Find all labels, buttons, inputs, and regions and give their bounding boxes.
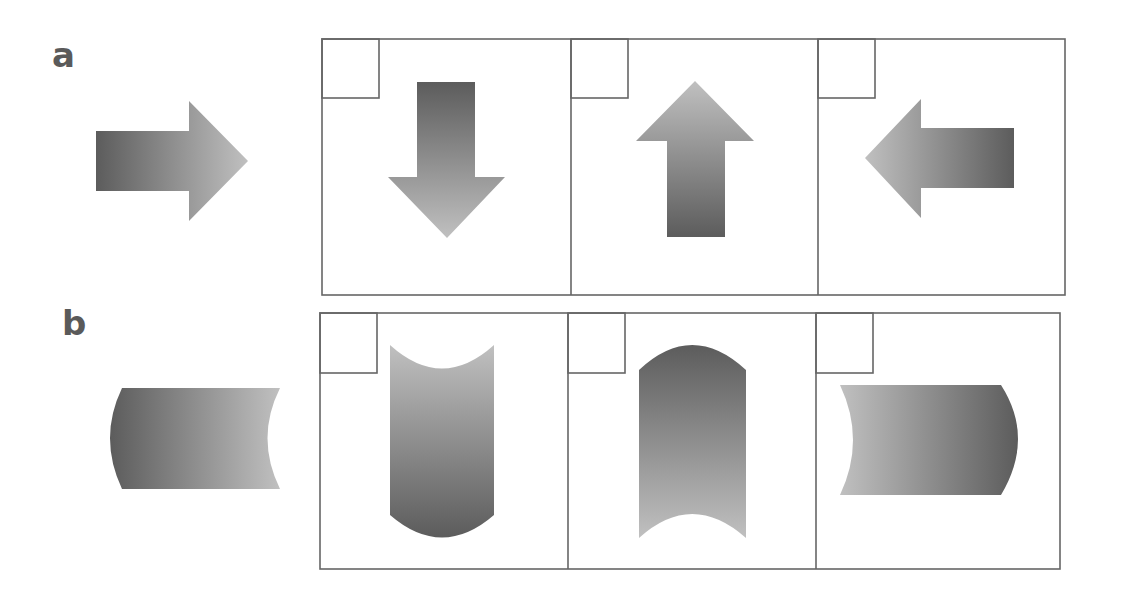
cylinder-vertical-concave-top-icon[interactable]: [390, 345, 494, 538]
answer-box-b2[interactable]: [568, 313, 625, 373]
answer-box-b1[interactable]: [320, 313, 377, 373]
arrow-left-icon[interactable]: [865, 99, 1014, 218]
answer-box-a1[interactable]: [322, 39, 379, 98]
cylinder-vertical-concave-bottom-icon[interactable]: [639, 345, 746, 538]
arrow-down-icon[interactable]: [388, 82, 505, 238]
answer-box-a3[interactable]: [818, 39, 875, 98]
diagram-canvas: [0, 0, 1122, 598]
cylinder-left-concave-icon[interactable]: [840, 385, 1018, 495]
answer-box-b3[interactable]: [816, 313, 873, 373]
arrow-right-icon: [96, 101, 248, 221]
cylinder-right-concave-icon: [110, 388, 280, 489]
answer-box-a2[interactable]: [571, 39, 628, 98]
arrow-up-icon[interactable]: [636, 81, 754, 237]
